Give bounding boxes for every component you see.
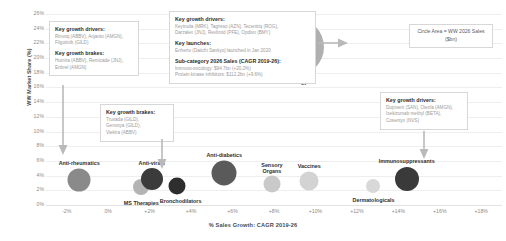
y-tick-label: 4%	[20, 173, 44, 178]
bubble-anti-diabetics[interactable]	[212, 160, 237, 185]
drivers-body: Rinvoq (ABBV), Anjanto (AMGN), Filgotini…	[55, 34, 133, 47]
bubble-label: MS Therapies	[124, 200, 159, 206]
x-tick-label: +6%	[218, 209, 248, 214]
arrow-to-anti-virals	[156, 139, 168, 171]
y-tick-label: 6%	[20, 158, 44, 163]
bubble-immunosuppressants[interactable]	[395, 167, 419, 191]
annotation-anti-rheumatics: Key growth drivers: Rinvoq (ABBV), Anjan…	[49, 21, 139, 76]
bubble-label: Vaccines	[298, 163, 321, 169]
drivers-heading: Key growth drivers:	[55, 26, 133, 33]
launches-heading: Key launches:	[175, 40, 310, 47]
x-axis-line	[46, 205, 502, 206]
y-tick-label: 20%	[20, 55, 44, 60]
legend-text: Circle Area = WW 2026 Sales ($bn)	[413, 28, 489, 43]
annotation-anti-virals: Key growth brakes: Truvada (GILD), Genvo…	[100, 104, 174, 142]
bubble-label: Bronchodilators	[160, 198, 202, 204]
y-tick-label: 22%	[20, 40, 44, 45]
x-tick-label: +18%	[466, 209, 496, 214]
bubble-label: Sensory Organs	[255, 162, 289, 174]
brakes-body: Truvada (GILD), Genvoya (GILD), Viekira …	[106, 117, 168, 137]
x-tick-label: +2%	[135, 209, 165, 214]
x-tick-label: 0%	[93, 209, 123, 214]
gridline	[46, 87, 502, 88]
bubble-bronchodilators[interactable]	[168, 177, 185, 194]
drivers-heading: Key growth drivers:	[386, 97, 462, 104]
brakes-body: Humira (ABBV), Remicade (JNJ), Enbrel (A…	[55, 58, 133, 71]
y-tick-label: 18%	[20, 70, 44, 75]
bubble-label: Anti-diabetics	[206, 152, 242, 158]
brakes-heading: Key growth brakes:	[55, 50, 133, 57]
x-tick-label: +10%	[300, 209, 330, 214]
drivers-heading: Key growth drivers:	[175, 16, 310, 23]
y-tick-label: 24%	[20, 26, 44, 31]
drivers-body: Dupixent (SAN), Otezla (AMGN), Ixekizuma…	[386, 105, 462, 125]
bubble-sensory-organs[interactable]	[263, 175, 280, 192]
bubble-vaccines[interactable]	[300, 171, 319, 190]
launches-body: Enhertu (Daiichi Sankyo) launched in Jan…	[175, 48, 310, 55]
annotation-immunosuppressants: Key growth drivers: Dupixent (SAN), Otez…	[380, 92, 468, 130]
brakes-heading: Key growth brakes:	[106, 109, 168, 116]
bubble-chart: WW Market Share (%) 0%2%4%6%8%10%12%14%1…	[0, 0, 506, 241]
arrow-to-immunosuppressants	[418, 131, 430, 161]
bubble-label: Anti-rheumatics	[59, 160, 100, 166]
subcategory-heading: Sub-category 2026 Sales (CAGR 2019-26):	[175, 58, 310, 65]
subcategory-body: Immuno-oncology: $94.7bn (+20.2%) Protei…	[175, 66, 310, 79]
arrow-to-anti-rheumatics	[57, 85, 69, 157]
bubble-anti-rheumatics[interactable]	[68, 169, 91, 192]
legend-circle-area: Circle Area = WW 2026 Sales ($bn)	[409, 24, 493, 48]
x-tick-label: +12%	[342, 209, 372, 214]
y-tick-label: 26%	[20, 11, 44, 16]
x-tick-label: +8%	[259, 209, 289, 214]
bubble-dermatologicals[interactable]	[366, 179, 380, 193]
y-tick-label: 0%	[20, 202, 44, 207]
y-tick-label: 16%	[20, 84, 44, 89]
x-tick-label: -2%	[52, 209, 82, 214]
drivers-body: Keytruda (MRK), Tagrisso (AZN), Tecentri…	[175, 24, 310, 37]
x-tick-label: +16%	[425, 209, 455, 214]
bubble-label: Dermatologicals	[353, 197, 395, 203]
y-tick-label: 10%	[20, 129, 44, 134]
gridline	[46, 146, 502, 147]
x-tick-label: +4%	[176, 209, 206, 214]
x-tick-label: +14%	[383, 209, 413, 214]
annotation-oncology: Key growth drivers: Keytruda (MRK), Tagr…	[169, 11, 316, 84]
y-tick-label: 12%	[20, 114, 44, 119]
y-tick-label: 8%	[20, 143, 44, 148]
y-tick-label: 14%	[20, 99, 44, 104]
y-tick-label: 2%	[20, 187, 44, 192]
arrow-to-oncology	[318, 37, 350, 49]
x-axis-title: % Sales Growth: CAGR 2019-26	[0, 222, 506, 228]
